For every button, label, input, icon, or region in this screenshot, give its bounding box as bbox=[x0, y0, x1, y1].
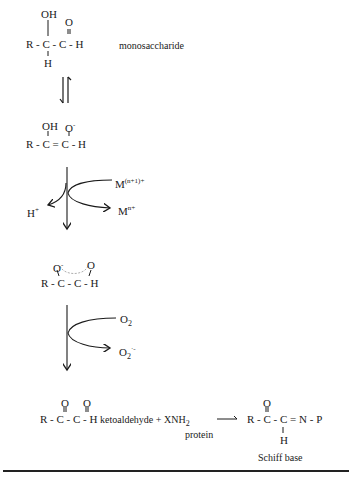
oxide-oxygen: O- bbox=[65, 119, 75, 134]
carbonyl-oxygen: O bbox=[83, 397, 91, 409]
forward-arrow bbox=[217, 416, 237, 419]
schiff-base-label: Schiff base bbox=[258, 452, 303, 464]
carbonyl-oxygen: O bbox=[61, 397, 69, 409]
carbonyl-oxygen: O bbox=[87, 259, 95, 271]
resonance-arc bbox=[60, 266, 88, 274]
oxide-oxygen: O- bbox=[53, 259, 63, 274]
carbonyl-oxygen: O bbox=[65, 16, 73, 28]
schiff-base-chain: R - C - C = N - P bbox=[247, 413, 322, 425]
monosaccharide-label: monosaccharide bbox=[119, 40, 184, 52]
oxygen-step-arrows bbox=[67, 305, 116, 370]
carbonyl-oxygen: O bbox=[263, 397, 271, 409]
proton: H+ bbox=[27, 204, 39, 219]
monosaccharide-chain: R - C - C - H bbox=[26, 38, 83, 50]
equilibrium-arrows bbox=[60, 77, 71, 103]
hydrogen: H bbox=[44, 57, 52, 69]
oh-group: OH bbox=[42, 120, 58, 132]
reaction-arrows bbox=[0, 0, 349, 478]
enediol-chain: R - C = C - H bbox=[26, 138, 86, 150]
ketoaldehyde-chain: R - C - C - H bbox=[40, 413, 97, 425]
bottom-rule bbox=[3, 470, 349, 472]
metal-reactant: M(n+1)+ bbox=[115, 175, 144, 190]
ketoaldehyde-label: ketoaldehyde + XNH2 bbox=[100, 414, 190, 430]
protein-label: protein bbox=[185, 429, 213, 441]
superoxide-product: O2·- bbox=[119, 343, 136, 363]
hydrogen: H bbox=[280, 434, 288, 446]
metal-product: Mn+ bbox=[118, 202, 135, 217]
intermediate-chain: R - C - C - H bbox=[41, 277, 98, 289]
oh-group: OH bbox=[41, 8, 57, 20]
metal-step-arrows bbox=[48, 167, 112, 229]
oxygen-reactant: O2 bbox=[120, 313, 132, 330]
